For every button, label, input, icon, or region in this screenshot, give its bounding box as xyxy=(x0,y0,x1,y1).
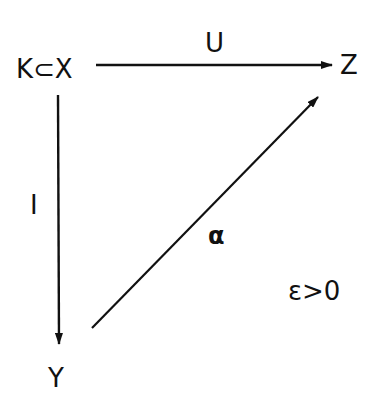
arrow-alpha xyxy=(92,97,318,328)
node-y: Y xyxy=(48,365,64,391)
node-k-subset-x: K⊂X xyxy=(16,56,73,82)
label-i: I xyxy=(30,192,38,218)
label-alpha: α xyxy=(208,224,225,248)
label-u: U xyxy=(205,30,224,56)
condition-epsilon: ε>0 xyxy=(288,278,340,304)
node-z: Z xyxy=(340,52,358,78)
arrow-i xyxy=(58,95,59,344)
